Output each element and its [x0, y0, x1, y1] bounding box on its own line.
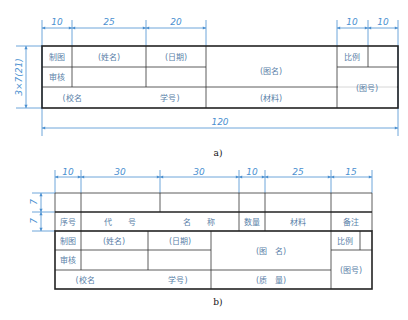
dim-a-10-right: 10: [377, 17, 389, 27]
dim-b-row-7-top: 7: [29, 199, 39, 205]
dim-b-10: 10: [62, 167, 74, 177]
cell-a-student-id: 学号): [160, 93, 179, 103]
figure-a-extension-lines: [16, 20, 398, 136]
dim-a-height: 3×7(21): [14, 58, 24, 95]
cell-a-drawing-name: (图名): [260, 66, 282, 76]
cell-a-material: (材料): [260, 93, 282, 103]
cell-b-drawing-no: (图号): [340, 266, 362, 275]
dim-a-10: 10: [51, 17, 63, 27]
cell-a-name: (姓名): [98, 52, 120, 62]
figure-b: 10 30 30 10 25 15 7 7 序号 代 号 名 称 数量 材料 备…: [29, 167, 372, 307]
header-b-material: 材料: [290, 217, 306, 227]
header-b-name: 名 称: [183, 217, 215, 227]
cell-b-checked: 审核: [60, 255, 76, 265]
figure-a-top-dimensions: [26, 28, 398, 128]
cell-b-name: (姓名): [103, 236, 125, 246]
header-b-code: 代 号: [104, 217, 136, 227]
dim-b-10-qty: 10: [246, 167, 258, 177]
cell-b-school: (校名: [75, 275, 94, 285]
caption-b: b): [213, 297, 222, 307]
cell-b-drawing-name: (图 名): [256, 246, 286, 256]
header-b-qty: 数量: [244, 217, 260, 227]
dim-b-row-7-bottom: 7: [29, 218, 39, 224]
cell-b-scale: 比例: [337, 236, 353, 246]
caption-a: a): [214, 148, 223, 158]
cell-b-date: (日期): [169, 237, 191, 246]
header-b-remarks: 备注: [343, 217, 359, 227]
cell-b-mass: (质 量): [256, 275, 286, 285]
cell-a-drawing-no: (图号): [356, 84, 378, 93]
cell-a-date: (日期): [165, 53, 187, 62]
cell-b-student-id: 学号): [168, 275, 187, 285]
figure-a: 10 25 20 10 10 120 3×7(21) 制图 (姓名) (日期) …: [14, 17, 398, 158]
dim-a-total: 120: [211, 117, 228, 127]
dim-a-10-scale: 10: [346, 17, 358, 27]
cell-a-checked: 审核: [49, 72, 65, 82]
header-b-seq: 序号: [60, 217, 76, 227]
dim-a-25: 25: [103, 17, 115, 27]
cell-a-scale: 比例: [344, 52, 360, 62]
dim-b-25: 25: [292, 167, 304, 177]
cell-a-drawn: 制图: [49, 52, 65, 62]
dim-b-15: 15: [345, 167, 357, 177]
dim-a-20: 20: [170, 17, 182, 27]
dim-b-30-second: 30: [193, 167, 205, 177]
dim-b-30-first: 30: [114, 167, 126, 177]
cell-a-school: (校名: [62, 93, 81, 103]
title-block-diagram: 10 25 20 10 10 120 3×7(21) 制图 (姓名) (日期) …: [0, 0, 408, 320]
cell-b-drawn: 制图: [60, 236, 76, 246]
